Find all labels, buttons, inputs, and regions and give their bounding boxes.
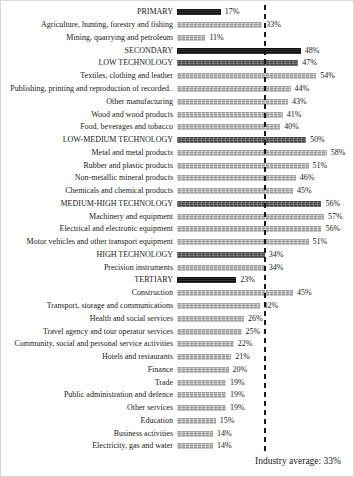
value-label: 47% [302,59,317,67]
chart-row: Publishing, printing and reproduction of… [1,83,353,96]
value-label: 34% [269,264,284,272]
category-label: HIGH TECHNOLOGY [1,251,177,259]
value-label: 20% [233,366,248,374]
category-label: Metal and metal products [1,149,177,157]
value-label: 34% [269,251,284,259]
chart-row: Travel agency and tour operator services… [1,325,353,338]
value-label: 57% [328,213,343,221]
chart-row: Textiles, clothing and leather 54% [1,70,353,83]
value-label: 50% [310,136,325,144]
bar [177,112,283,118]
chart-row: Metal and metal products 58% [1,146,353,159]
bar [177,392,226,398]
value-label: 48% [305,47,320,55]
category-label: LOW TECHNOLOGY [1,59,177,67]
value-label: 40% [284,123,299,131]
category-label: Publishing, printing and reproduction of… [1,85,177,93]
bar [177,175,296,181]
bar [177,150,327,156]
bar [177,329,242,335]
category-label: Rubber and plastic products [1,162,177,170]
category-label: Transport, storage and communications [1,302,177,310]
category-label: PRIMARY [1,8,177,16]
value-label: 23% [240,276,255,284]
value-label: 11% [209,34,223,42]
value-label: 45% [297,187,312,195]
value-label: 14% [217,442,232,450]
bar [177,60,298,66]
chart-row: Chemicals and chemical products 45% [1,185,353,198]
value-label: 19% [230,404,245,412]
category-label: Electricity, gas and water [1,442,177,450]
chart-row: Mining, quarrying and petroleum 11% [1,32,353,45]
bar [177,188,293,194]
bar [177,252,265,258]
bar [177,265,265,271]
chart-row: Food, beverages and tobacco 40% [1,121,353,134]
chart-row: Electricity, gas and water 14% [1,440,353,453]
chart-row: Construction 45% [1,287,353,300]
chart-row: Public administration and defence 19% [1,389,353,402]
bar [177,48,301,54]
chart-row: Transport, storage and communications 32… [1,300,353,313]
chart-row: Other manufacturing 43% [1,95,353,108]
category-label: LOW-MEDIUM TECHNOLOGY [1,136,177,144]
value-label: 15% [220,417,235,425]
value-label: 45% [297,289,312,297]
chart-row: Motor vehicles and other transport equip… [1,236,353,249]
value-label: 19% [230,391,245,399]
bar [177,277,236,283]
bar [177,35,205,41]
value-label: 46% [300,174,315,182]
category-label: SECONDARY [1,47,177,55]
chart-row: PRIMARY 17% [1,6,353,19]
category-label: Precision instruments [1,264,177,272]
bar [177,316,244,322]
chart-row: LOW-MEDIUM TECHNOLOGY 50% [1,134,353,147]
chart-row: Agriculture, hunting, forestry and fishi… [1,19,353,32]
category-label: Non-metallic mineral products [1,174,177,182]
category-label: Machinery and equipment [1,213,177,221]
bar [177,201,321,207]
value-label: 19% [230,379,245,387]
value-label: 44% [295,85,310,93]
category-label: Agriculture, hunting, forestry and fishi… [1,21,177,29]
chart-row: Community, social and personal service a… [1,338,353,351]
category-label: Trade [1,379,177,387]
technology-bar-chart: PRIMARY 17% Agriculture, hunting, forest… [0,0,354,477]
category-label: Electrical and electronic equipment [1,225,177,233]
bar [177,367,229,373]
value-label: 54% [320,72,335,80]
value-label: 41% [287,111,302,119]
category-label: Textiles, clothing and leather [1,72,177,80]
chart-row: Health and social services 26% [1,312,353,325]
value-label: 26% [248,315,263,323]
category-label: Wood and wood products [1,111,177,119]
bar [177,354,231,360]
bar [177,9,221,15]
chart-row: Electrical and electronic equipment 56% [1,223,353,236]
chart-row: HIGH TECHNOLOGY 34% [1,249,353,262]
chart-row: Education 15% [1,415,353,428]
category-label: Other manufacturing [1,98,177,106]
bar [177,290,293,296]
category-label: Public administration and defence [1,391,177,399]
category-label: Other services [1,404,177,412]
chart-row: Machinery and equipment 57% [1,210,353,223]
chart-row: Other services 19% [1,402,353,415]
chart-row: Precision instruments 34% [1,261,353,274]
category-label: Motor vehicles and other transport equip… [1,238,177,246]
bar [177,137,306,143]
category-label: Finance [1,366,177,374]
bar [177,99,288,105]
bar [177,214,324,220]
category-label: Health and social services [1,315,177,323]
category-label: Hotels and restaurants [1,353,177,361]
value-label: 17% [225,8,240,16]
chart-row: LOW TECHNOLOGY 47% [1,57,353,70]
value-label: 56% [325,200,340,208]
bar [177,22,262,28]
category-label: Community, social and personal service a… [1,340,177,348]
value-label: 21% [235,353,250,361]
chart-row: Rubber and plastic products 51% [1,159,353,172]
